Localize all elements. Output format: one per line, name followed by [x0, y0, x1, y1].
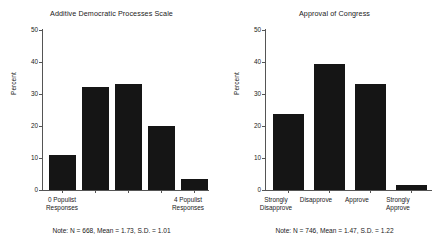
bar-series [265, 30, 431, 190]
y-tick-label: 40 [239, 58, 261, 66]
x-axis-line [42, 190, 209, 191]
y-tick-30: 30 [254, 94, 265, 95]
x-tick [62, 190, 63, 193]
x-axis-label-last: 4 Populist Responses [150, 196, 226, 213]
y-tick-30: 30 [31, 94, 42, 95]
y-tick-0: 0 [254, 190, 265, 191]
y-tick-40: 40 [254, 62, 265, 63]
y-tick-40: 40 [31, 62, 42, 63]
bar [148, 126, 175, 190]
x-tick [329, 190, 330, 193]
bar [181, 179, 208, 190]
panel-title: Additive Democratic Processes Scale [0, 9, 223, 18]
y-tick-label: 0 [239, 186, 261, 194]
x-tick [95, 190, 96, 193]
x-tick [128, 190, 129, 193]
panel-note: Note: N = 746, Mean = 1.47, S.D. = 1.22 [223, 227, 446, 234]
bar [49, 155, 76, 190]
bar-series [42, 30, 208, 190]
y-tick-20: 20 [254, 126, 265, 127]
y-tick-label: 50 [239, 26, 261, 34]
bar [273, 114, 304, 190]
x-tick [288, 190, 289, 193]
x-axis-label-first: 0 Populist Responses [24, 196, 100, 213]
y-tick-20: 20 [31, 126, 42, 127]
bar [314, 64, 345, 190]
y-tick-label: 30 [239, 90, 261, 98]
x-tick [161, 190, 162, 193]
y-tick-label: 40 [16, 58, 38, 66]
y-tick-label: 10 [239, 154, 261, 162]
x-axis-line [265, 190, 432, 191]
y-tick-50: 50 [254, 30, 265, 31]
y-tick-50: 50 [31, 30, 42, 31]
y-tick-10: 10 [31, 158, 42, 159]
y-tick-label: 0 [16, 186, 38, 194]
x-axis-label-strongly-approve: Strongly Approve [372, 196, 424, 213]
y-tick-label: 50 [16, 26, 38, 34]
y-tick-10: 10 [254, 158, 265, 159]
panel-title: Approval of Congress [223, 9, 446, 18]
y-tick-label: 20 [16, 122, 38, 130]
y-tick-0: 0 [31, 190, 42, 191]
x-tick [194, 190, 195, 193]
two-panel-bar-chart-figure: Additive Democratic Processes Scale Perc… [0, 0, 446, 243]
bar [355, 84, 386, 190]
y-tick-label: 20 [239, 122, 261, 130]
y-tick-label: 30 [16, 90, 38, 98]
panel-approval-of-congress: Approval of Congress Percent 50 40 30 20… [223, 0, 446, 243]
panel-additive-democratic-processes-scale: Additive Democratic Processes Scale Perc… [0, 0, 223, 243]
bar [115, 84, 142, 190]
panel-note: Note: N = 668, Mean = 1.73, S.D. = 1.01 [0, 227, 223, 234]
x-tick [370, 190, 371, 193]
y-tick-label: 10 [16, 154, 38, 162]
x-tick [411, 190, 412, 193]
bar [82, 87, 109, 190]
